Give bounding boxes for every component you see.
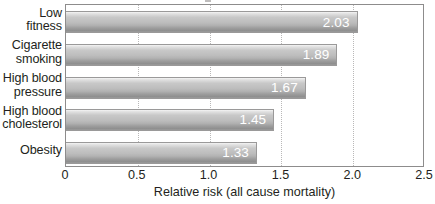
bar-value-label: 1.45: [240, 113, 274, 127]
category-label-cigarette-smoking: Cigarette smoking: [0, 39, 62, 66]
bar: 2.03: [66, 11, 358, 33]
category-label-obesity: Obesity: [0, 144, 62, 158]
category-label-line: Obesity: [0, 144, 62, 158]
x-axis-tick-labels: 00.51.01.52.02.5: [0, 168, 435, 184]
x-tick-label: 1.0: [200, 168, 218, 182]
category-label-line: cholesterol: [0, 118, 62, 132]
x-tick-label: 2.0: [343, 168, 361, 182]
category-label-low-fitness: Low fitness: [0, 7, 62, 34]
bar: 1.89: [66, 44, 337, 66]
relative-risk-bar-chart: Low fitness Cigarette smoking High blood…: [0, 0, 435, 204]
bar: 1.45: [66, 109, 274, 131]
category-label-line: pressure: [0, 86, 62, 100]
x-tick-label: 0: [61, 168, 68, 182]
x-tick-label: 1.5: [272, 168, 290, 182]
bar-value-label: 2.03: [323, 16, 357, 30]
plot-area: 2.031.891.671.451.33: [65, 4, 424, 167]
x-tick-label: 0.5: [128, 168, 146, 182]
category-label-line: Cigarette: [0, 39, 62, 53]
x-axis-title: Relative risk (all cause mortality): [65, 185, 424, 199]
category-label-high-blood-pressure: High blood pressure: [0, 72, 62, 99]
scan-artifact: [205, 0, 211, 2]
bar-value-label: 1.89: [303, 48, 337, 62]
category-label-line: High blood: [0, 105, 62, 119]
category-label-line: Low: [0, 7, 62, 21]
bar: 1.33: [66, 142, 257, 164]
category-label-high-blood-cholesterol: High blood cholesterol: [0, 105, 62, 132]
x-tick-label: 2.5: [415, 168, 433, 182]
bars-layer: 2.031.891.671.451.33: [66, 5, 423, 166]
category-axis-labels: Low fitness Cigarette smoking High blood…: [0, 4, 62, 167]
bar-value-label: 1.67: [271, 81, 305, 95]
category-label-line: smoking: [0, 53, 62, 67]
category-label-line: High blood: [0, 72, 62, 86]
category-label-line: fitness: [0, 20, 62, 34]
bar: 1.67: [66, 77, 306, 99]
bar-value-label: 1.33: [222, 146, 256, 160]
